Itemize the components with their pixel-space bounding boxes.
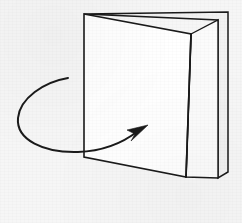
- folded-card-illustration: [0, 0, 242, 223]
- front-panel: [84, 14, 191, 177]
- figure-root: [0, 0, 242, 223]
